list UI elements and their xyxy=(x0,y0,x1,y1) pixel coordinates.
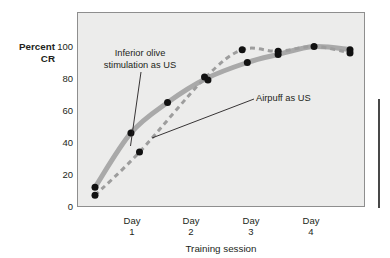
x-tick-label-day1-line2: 1 xyxy=(129,226,134,237)
data-point xyxy=(311,43,318,50)
plot-area-background xyxy=(78,13,365,207)
y-tick-label-100: 100 xyxy=(57,41,73,52)
y-tick-label-0: 0 xyxy=(68,201,73,212)
chart-svg: Percent CR 100 80 60 40 20 0 Inferior ol… xyxy=(0,0,390,258)
y-axis-title-line2: CR xyxy=(41,53,55,64)
y-tick-label-60: 60 xyxy=(62,105,73,116)
annotation-inferior-olive-line2: stimulation as US xyxy=(104,60,176,70)
x-tick-label-day2-line2: 2 xyxy=(188,226,193,237)
data-point xyxy=(244,59,251,66)
chart-figure: Percent CR 100 80 60 40 20 0 Inferior ol… xyxy=(0,0,390,258)
x-tick-label-day4-line1: Day xyxy=(303,215,320,226)
data-point xyxy=(347,49,354,56)
data-point xyxy=(127,129,134,136)
data-point xyxy=(92,184,99,191)
x-tick-label-day2-line1: Day xyxy=(183,215,200,226)
y-tick-label-40: 40 xyxy=(62,137,73,148)
y-axis-title-line1: Percent xyxy=(19,41,56,52)
x-tick-label-day3-line2: 3 xyxy=(248,226,253,237)
x-tick-label-day4-line2: 4 xyxy=(308,226,313,237)
x-tick-label-day1-line1: Day xyxy=(124,215,141,226)
data-point xyxy=(164,99,171,106)
data-point xyxy=(275,51,282,58)
data-point xyxy=(239,46,246,53)
x-axis-title: Training session xyxy=(186,243,257,254)
x-tick-label-day3-line1: Day xyxy=(243,215,260,226)
y-tick-label-20: 20 xyxy=(62,169,73,180)
y-tick-label-80: 80 xyxy=(62,73,73,84)
annotation-airpuff-line1: Airpuff as US xyxy=(256,93,311,103)
data-point xyxy=(136,149,143,156)
data-point xyxy=(92,192,99,199)
data-point xyxy=(204,77,211,84)
annotation-inferior-olive-line1: Inferior olive xyxy=(115,48,166,58)
